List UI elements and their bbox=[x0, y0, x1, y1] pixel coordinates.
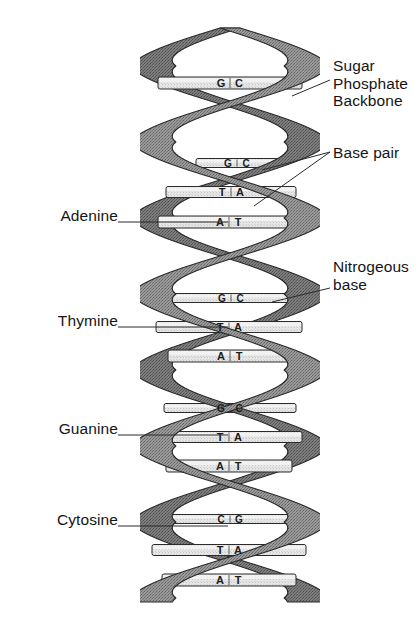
label-cytosine: Cytosine bbox=[22, 511, 118, 529]
label-line: Backbone bbox=[333, 92, 419, 110]
base-letter-right: A bbox=[234, 544, 242, 556]
base-letter-left: G bbox=[218, 293, 226, 304]
base-letter-left: T bbox=[217, 544, 224, 556]
label-line: Sugar bbox=[333, 57, 419, 75]
label-line: Base pair bbox=[333, 144, 419, 162]
base-letter-left: A bbox=[216, 460, 224, 472]
label-thymine: Thymine bbox=[22, 312, 118, 330]
base-letter-right: T bbox=[235, 574, 242, 586]
base-letter-left: A bbox=[217, 350, 225, 362]
base-letter-right: C bbox=[242, 158, 249, 169]
base-letter-left: C bbox=[217, 514, 224, 525]
base-letter-left: A bbox=[216, 574, 224, 586]
base-letter-right: A bbox=[234, 431, 242, 443]
base-letter-right: C bbox=[235, 77, 243, 89]
base-letter-right: T bbox=[235, 460, 242, 472]
base-letter-right: C bbox=[236, 293, 243, 304]
base-letter-right: C bbox=[235, 403, 242, 414]
dna-diagram: GCGCTAATGCTAATGCTAATCGTAAT AdenineThymin… bbox=[0, 0, 419, 625]
base-letter-left: T bbox=[217, 431, 224, 443]
label-nitrogeous-base: Nitrogeousbase bbox=[333, 258, 419, 293]
base-letter-right: G bbox=[235, 514, 243, 525]
label-sugar-phosphate-backbone: SugarPhosphateBackbone bbox=[333, 57, 419, 110]
base-letter-left: G bbox=[224, 158, 232, 169]
label-line: base bbox=[333, 276, 419, 294]
label-line: Nitrogeous bbox=[333, 258, 419, 276]
label-adenine: Adenine bbox=[22, 207, 118, 225]
base-pair-rung bbox=[160, 515, 300, 524]
base-letter-right: A bbox=[236, 186, 244, 198]
label-guanine: Guanine bbox=[22, 420, 118, 438]
base-letter-left: G bbox=[217, 403, 225, 414]
label-base-pair: Base pair bbox=[333, 144, 419, 162]
base-letter-right: T bbox=[235, 216, 242, 228]
base-letter-left: G bbox=[217, 77, 226, 89]
base-letter-right: A bbox=[234, 321, 242, 333]
base-letter-left: T bbox=[219, 186, 226, 198]
label-line: Phosphate bbox=[333, 75, 419, 93]
base-letter-right: T bbox=[236, 350, 243, 362]
base-pair-rung bbox=[156, 432, 302, 443]
